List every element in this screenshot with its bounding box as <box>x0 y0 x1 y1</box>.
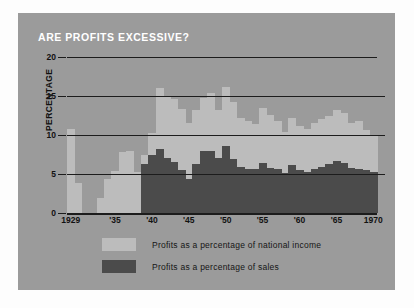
legend-label-sales: Profits as a percentage of sales <box>152 262 279 272</box>
gridline-10 <box>67 135 377 136</box>
x-tick-label-1955: '55 <box>257 215 268 225</box>
chart-legend: Profits as a percentage of national inco… <box>102 237 321 281</box>
x-tick-label-1960: '60 <box>294 215 305 225</box>
y-tick-right-10 <box>377 135 385 136</box>
x-axis-tick-labels: 1929'35'40'45'50'55'60'651970 <box>67 215 377 229</box>
legend-swatch-national-income <box>102 238 136 251</box>
legend-swatch-sales <box>102 260 136 273</box>
plot-area: 05101520 <box>67 57 377 213</box>
y-tick-label-0: 0 <box>51 208 56 218</box>
x-tick-label-1945: '45 <box>183 215 194 225</box>
y-tick-label-15: 15 <box>47 91 56 101</box>
y-tick-right-5 <box>377 174 385 175</box>
y-tick-label-20: 20 <box>47 52 56 62</box>
legend-item-national-income: Profits as a percentage of national inco… <box>102 237 321 252</box>
gridline-20 <box>67 57 377 58</box>
y-tick-15 <box>58 96 66 97</box>
y-tick-5 <box>58 174 66 175</box>
y-tick-label-5: 5 <box>51 169 56 179</box>
bar-sales <box>370 172 378 213</box>
x-tick-label-1950: '50 <box>220 215 231 225</box>
x-tick-label-1929: 1929 <box>61 215 80 225</box>
x-tick-label-1935: '35 <box>109 215 120 225</box>
y-tick-20 <box>58 57 66 58</box>
legend-label-national-income: Profits as a percentage of national inco… <box>152 240 321 250</box>
legend-item-sales: Profits as a percentage of sales <box>102 259 321 274</box>
chart-poster: ARE PROFITS EXCESSIVE? PERCENTAGE 051015… <box>18 13 395 290</box>
x-tick-label-1940: '40 <box>146 215 157 225</box>
y-tick-label-10: 10 <box>47 130 56 140</box>
x-tick-label-1965: '65 <box>331 215 342 225</box>
x-tick-label-1970: 1970 <box>364 215 383 225</box>
gridline-5 <box>67 174 377 175</box>
y-tick-right-15 <box>377 96 385 97</box>
chart-title: ARE PROFITS EXCESSIVE? <box>38 31 190 43</box>
y-tick-0 <box>58 213 66 214</box>
y-tick-10 <box>58 135 66 136</box>
gridline-15 <box>67 96 377 97</box>
